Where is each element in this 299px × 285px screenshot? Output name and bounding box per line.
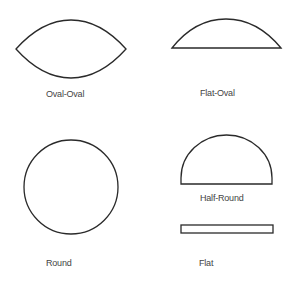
half-round-label: Half-Round [200, 193, 244, 203]
flat-shape [181, 225, 273, 233]
round-shape-group: Round [24, 140, 118, 268]
oval-oval-shape-group: Oval-Oval [16, 20, 126, 99]
oval-oval-label: Oval-Oval [46, 89, 84, 99]
oval-oval-shape [16, 20, 126, 78]
flat-oval-label: Flat-Oval [200, 88, 235, 98]
flat-label: Flat [199, 258, 214, 268]
shape-profiles-diagram: Oval-Oval Flat-Oval Round Half-Round Fla… [0, 0, 299, 285]
round-label: Round [46, 258, 72, 268]
half-round-shape-group: Half-Round [181, 135, 272, 203]
flat-oval-shape-group: Flat-Oval [172, 19, 281, 98]
round-shape [24, 140, 118, 234]
flat-shape-group: Flat [181, 225, 273, 268]
flat-oval-shape [172, 19, 281, 48]
half-round-shape [181, 135, 272, 184]
